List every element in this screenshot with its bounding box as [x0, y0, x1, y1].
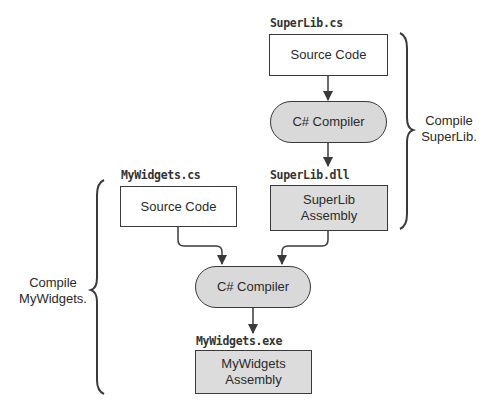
compile-mywidgets-line1: Compile: [14, 275, 92, 291]
mywidgets-source-code-label: Source Code: [141, 199, 217, 215]
mywidgets-cs-filename: MyWidgets.cs: [121, 168, 200, 182]
compile-mywidgets-line2: MyWidgets.: [14, 291, 92, 307]
mywidgets-assembly-line1: MyWidgets: [221, 356, 285, 372]
compile-superlib-line1: Compile: [418, 113, 480, 129]
mywidgets-csharp-compiler: C# Compiler: [195, 266, 311, 308]
mywidgets-source-code-box: Source Code: [120, 186, 237, 227]
superlib-assembly-line2: Assembly: [301, 208, 357, 224]
mywidgets-exe-filename: MyWidgets.exe: [196, 334, 282, 348]
superlib-compiler-label: C# Compiler: [292, 114, 364, 130]
superlib-source-code-label: Source Code: [291, 47, 367, 63]
compile-superlib-line2: SuperLib.: [418, 129, 480, 145]
superlib-dll-filename: SuperLib.dll: [270, 168, 349, 182]
mywidgets-compiler-label: C# Compiler: [217, 279, 289, 295]
superlib-source-code-box: Source Code: [269, 34, 388, 76]
compile-superlib-note: Compile SuperLib.: [418, 113, 480, 145]
mywidgets-assembly-box: MyWidgets Assembly: [195, 350, 312, 394]
compile-mywidgets-note: Compile MyWidgets.: [14, 275, 92, 307]
superlib-assembly-box: SuperLib Assembly: [270, 185, 388, 231]
superlib-csharp-compiler: C# Compiler: [270, 101, 387, 143]
mywidgets-assembly-line2: Assembly: [225, 372, 281, 388]
superlib-assembly-line1: SuperLib: [303, 192, 355, 208]
superlib-cs-filename: SuperLib.cs: [270, 16, 343, 30]
